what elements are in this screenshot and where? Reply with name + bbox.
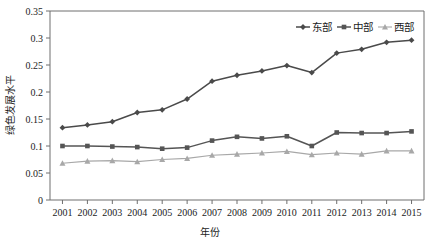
- chart-legend[interactable]: 东部中部西部: [296, 21, 414, 33]
- y-axis-ticks: 00.050.10.150.20.250.30.35: [26, 6, 51, 206]
- data-point-square-icon: [359, 131, 364, 136]
- x-tick-label: 2015: [402, 207, 422, 218]
- x-axis-title: 年份: [200, 226, 220, 238]
- x-tick-label: 2011: [302, 207, 322, 218]
- series-2: [60, 129, 414, 151]
- x-tick-label: 2009: [252, 207, 272, 218]
- x-tick-label: 2010: [277, 207, 297, 218]
- legend-marker-square-icon: [342, 25, 347, 30]
- y-tick-label: 0: [38, 195, 43, 206]
- legend-item-东部[interactable]: 东部: [296, 21, 332, 33]
- x-axis-ticks: 2001200220032004200520062007200820092010…: [52, 200, 421, 218]
- y-tick-label: 0.05: [26, 168, 44, 179]
- x-tick-label: 2002: [77, 207, 97, 218]
- data-point-diamond-icon: [134, 110, 140, 116]
- data-point-square-icon: [384, 131, 389, 136]
- data-point-diamond-icon: [259, 68, 265, 74]
- data-point-diamond-icon: [60, 125, 66, 131]
- data-point-square-icon: [210, 138, 215, 143]
- y-tick-label: 0.25: [26, 60, 44, 71]
- y-tick-label: 0.1: [31, 141, 44, 152]
- y-tick-label: 0.3: [31, 33, 44, 44]
- x-tick-label: 2001: [52, 207, 72, 218]
- series-layer: [59, 37, 414, 166]
- data-point-diamond-icon: [284, 63, 290, 69]
- x-tick-label: 2013: [352, 207, 372, 218]
- x-tick-label: 2014: [377, 207, 397, 218]
- data-point-square-icon: [310, 144, 315, 149]
- y-tick-label: 0.35: [26, 6, 44, 17]
- data-point-square-icon: [185, 145, 190, 150]
- data-point-square-icon: [285, 134, 290, 139]
- series-3: [59, 148, 414, 166]
- x-tick-label: 2003: [102, 207, 122, 218]
- legend-label: 西部: [394, 21, 414, 33]
- line-chart: 00.050.10.150.20.250.30.35 2001200220032…: [0, 0, 434, 240]
- x-tick-label: 2006: [177, 207, 197, 218]
- data-point-square-icon: [409, 129, 414, 134]
- data-point-square-icon: [85, 144, 90, 149]
- data-point-square-icon: [160, 146, 165, 151]
- x-tick-label: 2005: [152, 207, 172, 218]
- data-point-square-icon: [135, 145, 140, 150]
- x-tick-label: 2007: [202, 207, 222, 218]
- legend-marker-diamond-icon: [300, 24, 306, 30]
- legend-item-西部[interactable]: 西部: [378, 21, 414, 33]
- data-point-square-icon: [110, 144, 115, 149]
- data-point-diamond-icon: [234, 72, 240, 78]
- y-tick-label: 0.2: [31, 87, 44, 98]
- legend-item-中部[interactable]: 中部: [337, 21, 373, 33]
- y-axis-title: 绿色发展水平: [4, 75, 16, 135]
- data-point-square-icon: [260, 136, 265, 141]
- chart-container: 00.050.10.150.20.250.30.35 2001200220032…: [0, 0, 434, 240]
- legend-label: 东部: [312, 21, 332, 33]
- data-point-diamond-icon: [85, 122, 91, 128]
- legend-label: 中部: [353, 21, 373, 33]
- data-point-diamond-icon: [359, 46, 365, 52]
- data-point-square-icon: [334, 130, 339, 135]
- data-point-square-icon: [235, 135, 240, 140]
- series-line: [62, 131, 411, 148]
- data-point-diamond-icon: [159, 107, 165, 113]
- series-1: [60, 37, 415, 130]
- data-point-diamond-icon: [109, 119, 115, 125]
- series-line: [62, 40, 411, 127]
- data-point-diamond-icon: [409, 37, 415, 43]
- x-tick-label: 2012: [327, 207, 347, 218]
- x-tick-label: 2004: [127, 207, 147, 218]
- data-point-square-icon: [60, 144, 65, 149]
- data-point-diamond-icon: [384, 39, 390, 45]
- y-tick-label: 0.15: [26, 114, 44, 125]
- x-tick-label: 2008: [227, 207, 247, 218]
- plot-frame: [50, 11, 424, 200]
